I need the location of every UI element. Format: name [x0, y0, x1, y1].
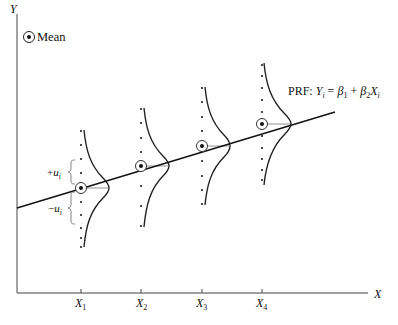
- svg-text:X3: X3: [195, 296, 207, 312]
- plus-brace-icon: [68, 160, 75, 184]
- legend-label: Mean: [37, 30, 66, 44]
- x-ticks: [81, 289, 262, 293]
- x-tick-labels: X1 X2 X3 X4: [74, 296, 267, 312]
- minus-brace-icon: [68, 192, 75, 224]
- prf-line: [17, 112, 335, 208]
- y-axis-label: Y: [10, 2, 18, 16]
- plus-u-label: +ui: [47, 166, 61, 181]
- x-axis-label: X: [373, 287, 382, 301]
- legend: Mean: [24, 30, 67, 44]
- svg-text:X1: X1: [74, 296, 86, 312]
- prf-equation-label: PRF: Yi = β1 + β2Xi: [288, 84, 380, 100]
- svg-text:X4: X4: [255, 296, 267, 312]
- minus-u-label: −ui: [48, 202, 62, 217]
- prf-diagram: Y X Mean X1 X2 X3 X4: [0, 0, 398, 325]
- svg-text:X2: X2: [135, 296, 147, 312]
